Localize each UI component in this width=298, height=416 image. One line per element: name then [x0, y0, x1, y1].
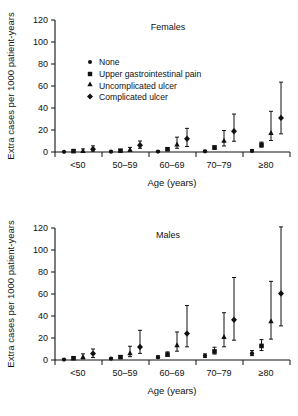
- y-tick-label: 120: [33, 223, 48, 233]
- data-point: [250, 149, 254, 153]
- x-tick-label-3: 70–79: [206, 368, 231, 378]
- data-point: [127, 346, 132, 356]
- data-point: [62, 150, 66, 154]
- males-x-axis: <50 50–59 60–69 70–79 ≥80 Age (years): [55, 360, 290, 396]
- x-tick-label-2: 60–69: [159, 160, 184, 170]
- x-tick-label-4: ≥80: [259, 160, 274, 170]
- legend-entry-ugi-pain: Upper gastrointestinal pain: [88, 69, 202, 79]
- data-point: [156, 355, 160, 359]
- legend-label-2: Uncomplicated ulcer: [99, 81, 177, 91]
- triangle-marker-icon: [174, 142, 179, 147]
- x-tick-label-1: 50–59: [112, 160, 137, 170]
- legend-entry-uncomplicated-ulcer: Uncomplicated ulcer: [87, 81, 177, 91]
- triangle-marker-icon: [268, 318, 273, 323]
- data-point: [127, 147, 132, 152]
- square-marker-icon: [212, 349, 217, 354]
- data-point: [174, 332, 179, 351]
- circle-marker-icon: [203, 149, 207, 153]
- data-point: [109, 150, 113, 154]
- data-point: [137, 141, 143, 148]
- circle-marker-icon: [88, 60, 92, 64]
- data-point: [71, 149, 76, 154]
- data-point: [221, 131, 226, 146]
- square-marker-icon: [118, 355, 123, 360]
- data-point: [165, 352, 170, 357]
- females-data-layer: [62, 82, 284, 154]
- circle-marker-icon: [250, 351, 254, 355]
- diamond-marker-icon: [90, 350, 96, 356]
- circle-marker-icon: [203, 354, 207, 358]
- data-point: [80, 354, 85, 359]
- y-tick-label: 100: [33, 245, 48, 255]
- data-point: [184, 306, 190, 347]
- data-point: [278, 227, 284, 326]
- square-marker-icon: [212, 145, 217, 150]
- diamond-marker-icon: [278, 290, 284, 296]
- chart-panel-females: 120 100 80 60 40 20 0 Extra cases per 10…: [0, 0, 298, 208]
- data-point: [268, 281, 273, 339]
- y-tick-label: 100: [33, 37, 48, 47]
- data-point: [203, 149, 207, 153]
- y-tick-label: 40: [38, 103, 48, 113]
- triangle-marker-icon: [221, 334, 226, 339]
- data-point: [221, 313, 226, 347]
- y-tick-label: 80: [38, 59, 48, 69]
- triangle-marker-icon: [80, 354, 85, 359]
- y-tick-label: 40: [38, 311, 48, 321]
- y-axis-title: Extra cases per 1000 patient-years: [5, 220, 16, 368]
- diamond-marker-icon: [278, 115, 284, 121]
- square-marker-icon: [71, 149, 76, 154]
- square-marker-icon: [88, 72, 92, 76]
- x-axis-title: Age (years): [147, 385, 196, 396]
- x-group-ticks: [55, 152, 290, 157]
- panel-title-females: Females: [151, 22, 186, 32]
- legend-label-3: Complicated ulcer: [99, 92, 168, 102]
- y-tick-label: 20: [38, 333, 48, 343]
- diamond-marker-icon: [231, 128, 237, 134]
- circle-marker-icon: [62, 357, 66, 361]
- square-marker-icon: [71, 356, 76, 361]
- data-point: [90, 146, 96, 153]
- males-y-axis: 120 100 80 60 40 20 0 Extra cases per 10…: [5, 220, 55, 368]
- females-svg: 120 100 80 60 40 20 0 Extra cases per 10…: [0, 0, 298, 208]
- data-point: [250, 351, 254, 356]
- data-point: [80, 148, 85, 153]
- legend-entry-none: None: [88, 57, 120, 67]
- legend: None Upper gastrointestinal pain Uncompl…: [87, 57, 201, 102]
- diamond-marker-icon: [87, 93, 93, 99]
- data-point: [156, 149, 160, 153]
- x-tick-label-1: 50–59: [112, 368, 137, 378]
- y-tick-label: 60: [38, 289, 48, 299]
- chart-panel-males: 120 100 80 60 40 20 0 Extra cases per 10…: [0, 208, 298, 416]
- x-group-ticks: [55, 360, 290, 365]
- triangle-marker-icon: [174, 342, 179, 347]
- diamond-marker-icon: [184, 136, 190, 142]
- triangle-marker-icon: [87, 81, 92, 86]
- data-point: [137, 330, 143, 353]
- y-tick-label: 20: [38, 125, 48, 135]
- triangle-marker-icon: [127, 350, 132, 355]
- y-tick-label: 60: [38, 81, 48, 91]
- data-point: [231, 114, 237, 141]
- diamond-marker-icon: [231, 317, 237, 323]
- data-point: [203, 354, 207, 358]
- square-marker-icon: [165, 352, 170, 357]
- legend-label-0: None: [99, 57, 120, 67]
- males-svg: 120 100 80 60 40 20 0 Extra cases per 10…: [0, 208, 298, 416]
- data-point: [259, 340, 264, 351]
- circle-marker-icon: [109, 150, 113, 154]
- square-marker-icon: [259, 344, 264, 349]
- data-point: [212, 347, 217, 354]
- y-axis-title: Extra cases per 1000 patient-years: [5, 12, 16, 160]
- data-point: [118, 148, 123, 153]
- x-tick-label-0: <50: [70, 368, 85, 378]
- data-point: [90, 349, 96, 358]
- triangle-marker-icon: [221, 138, 226, 143]
- x-tick-label-0: <50: [70, 160, 85, 170]
- females-y-axis: 120 100 80 60 40 20 0 Extra cases per 10…: [5, 12, 55, 160]
- figure-root: 120 100 80 60 40 20 0 Extra cases per 10…: [0, 0, 298, 416]
- data-point: [184, 128, 190, 146]
- circle-marker-icon: [109, 357, 113, 361]
- circle-marker-icon: [250, 149, 254, 153]
- legend-label-1: Upper gastrointestinal pain: [99, 69, 201, 79]
